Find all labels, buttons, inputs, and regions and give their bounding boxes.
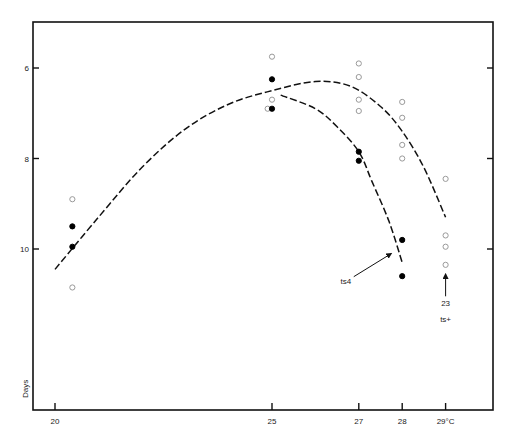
open-point (443, 244, 448, 249)
annotation-label: ts4 (340, 277, 351, 286)
plot-border (33, 22, 493, 410)
open-point (400, 142, 405, 147)
open-point (400, 115, 405, 120)
x-tick-label: 27 (354, 417, 363, 426)
chart: 2025272829°C6810 ts423ts+ Days (0, 0, 514, 445)
annotation-label: 23 (441, 299, 450, 308)
annotation-label: ts+ (440, 315, 451, 324)
annotation-arrow (354, 254, 392, 277)
filled-point (400, 274, 405, 279)
filled-point (269, 106, 274, 111)
filled-point (400, 237, 405, 242)
open-point (269, 54, 274, 59)
open-point (356, 108, 361, 113)
x-tick-label: 29°C (437, 417, 455, 426)
open-point (269, 97, 274, 102)
filled-point (269, 77, 274, 82)
x-tick-label: 20 (51, 417, 60, 426)
open-point (356, 74, 361, 79)
filled-point (70, 224, 75, 229)
open-point (400, 156, 405, 161)
y-tick-label: 6 (25, 64, 30, 73)
dashed-curve (281, 95, 403, 262)
open-point (443, 262, 448, 267)
open-point (356, 97, 361, 102)
annotations: ts423ts+ (340, 254, 451, 325)
filled-point (356, 149, 361, 154)
open-point (400, 99, 405, 104)
x-tick-label: 28 (398, 417, 407, 426)
open-point (443, 233, 448, 238)
x-tick-label: 25 (268, 417, 277, 426)
open-point (70, 197, 75, 202)
plot-frame (33, 22, 493, 410)
axis-ticks: 2025272829°C6810 (20, 64, 493, 426)
open-point (356, 61, 361, 66)
open-point (70, 285, 75, 290)
filled-point (356, 158, 361, 163)
y-axis-title: Days (21, 380, 30, 398)
open-point (443, 176, 448, 181)
y-tick-label: 8 (25, 155, 30, 164)
filled-point (70, 244, 75, 249)
dashed-curves (55, 81, 446, 269)
y-tick-label: 10 (20, 245, 29, 254)
dashed-curve (55, 81, 446, 269)
data-points (70, 54, 448, 290)
